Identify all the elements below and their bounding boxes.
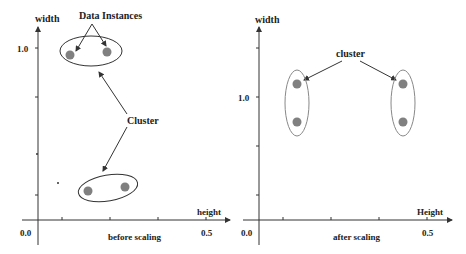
noise-dot [57,182,59,184]
scaling-diagram: width 1.0 height 0.0 0.5 before scaling … [0,0,466,254]
arrow-icon [360,61,396,80]
cluster-label-right: cluster [336,48,365,59]
data-point [399,80,408,89]
right-y-tick-label: 1.0 [238,93,250,103]
arrow-icon [103,127,127,171]
left-y-tick-label: 1.0 [17,44,29,54]
data-point [103,48,112,57]
right-caption: after scaling [333,232,381,242]
data-point [66,51,75,60]
arrow-icon [99,72,127,114]
right-x-origin-label: 0.0 [241,228,253,238]
noise-dot [36,153,38,155]
left-caption: before scaling [108,232,162,242]
left-y-axis-label: width [35,13,60,24]
left-x-origin-label: 0.0 [20,228,32,238]
data-point [293,118,302,127]
right-x-end-label: 0.5 [422,228,434,238]
right-y-axis-label: width [255,14,280,25]
cluster-label: Cluster [127,115,159,126]
data-instances-label: Data Instances [79,10,142,21]
arrow-icon [304,61,342,80]
data-point [399,118,408,127]
data-point [84,187,93,196]
right-x-axis-label: Height [417,207,443,217]
right-panel: width 1.0 Height 0.0 0.5 after scaling c… [238,14,452,245]
data-point [121,183,130,192]
left-x-end-label: 0.5 [201,228,213,238]
left-panel: width 1.0 height 0.0 0.5 before scaling … [17,10,230,245]
data-point [293,80,302,89]
arrow-icon [92,24,106,46]
left-x-axis-label: height [197,207,221,217]
